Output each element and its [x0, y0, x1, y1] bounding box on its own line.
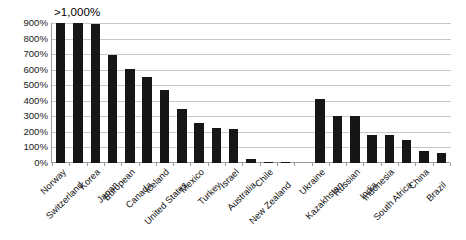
y-axis-tick-label: 700%: [4, 49, 48, 59]
bar: [212, 128, 222, 163]
y-axis: 900%800%700%600%500%400%300%200%100%0%: [0, 23, 48, 163]
bar: [108, 55, 118, 163]
bar: [56, 23, 66, 163]
y-axis-tick-label: 900%: [4, 18, 48, 28]
bar: [367, 135, 377, 163]
bar: [177, 109, 187, 163]
x-axis-labels: NorwaySwitzerlandKoreaJapanEuropeanCanad…: [0, 163, 466, 240]
bar-chart: >1,000% 900%800%700%600%500%400%300%200%…: [0, 0, 466, 240]
bar: [419, 151, 429, 163]
bar: [350, 116, 360, 163]
chart-annotation-over-1000-percent: >1,000%: [54, 6, 100, 18]
bar: [315, 99, 325, 163]
bar: [194, 123, 204, 163]
bar: [437, 153, 447, 163]
bar: [160, 90, 170, 163]
y-axis-tick-label: 200%: [4, 127, 48, 137]
bar: [91, 24, 101, 163]
y-axis-tick-label: 500%: [4, 80, 48, 90]
bar: [142, 77, 152, 163]
y-axis-tick-label: 600%: [4, 65, 48, 75]
y-axis-tick-label: 100%: [4, 142, 48, 152]
y-axis-tick-label: 400%: [4, 96, 48, 106]
bar: [402, 140, 412, 163]
bar: [333, 116, 343, 163]
bar: [229, 129, 239, 163]
bar: [385, 135, 395, 163]
bar: [73, 23, 83, 163]
y-axis-tick-label: 300%: [4, 111, 48, 121]
bars-container: [52, 23, 450, 163]
bar: [125, 69, 135, 163]
y-axis-tick-label: 800%: [4, 34, 48, 44]
